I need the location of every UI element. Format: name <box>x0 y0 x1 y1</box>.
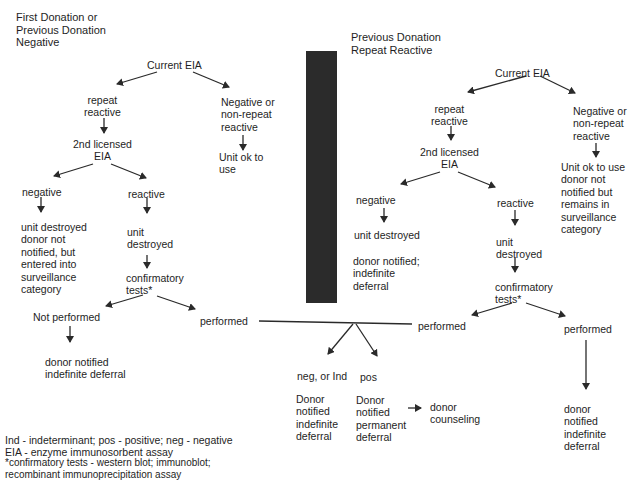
legend-footnote: *confirmatory tests - western blot; immu… <box>5 457 211 481</box>
result-pos-outcome: Donor notified permanent deferral <box>356 394 406 444</box>
performed-connector-line <box>259 321 412 324</box>
left-second-eia: 2nd licensed EIA <box>73 138 132 163</box>
left-performed: performed <box>200 315 248 327</box>
right-performed-right-outcome: donor notified indefinite deferral <box>564 403 606 453</box>
left-unit-ok: Unit ok to use <box>219 151 263 176</box>
left-negative: negative <box>22 186 62 198</box>
left-negative-outcome: unit destroyed donor not notified, but e… <box>21 221 87 295</box>
left-not-performed-outcome: donor notified indefinite deferral <box>45 356 126 381</box>
right-performed-right: performed <box>564 323 612 335</box>
left-not-performed: Not performed <box>33 311 100 323</box>
right-confirmatory-tests: confirmatory tests* <box>495 281 553 306</box>
right-negative-outcome: donor notified; indefinite deferral <box>353 255 420 292</box>
right-performed-left: performed <box>418 320 466 332</box>
result-donor-counseling: donor counseling <box>430 401 480 426</box>
right-negative: negative <box>356 194 396 206</box>
right-negative-unit-destroyed: unit destroyed <box>354 229 420 241</box>
right-panel-heading: Previous Donation Repeat Reactive <box>351 31 441 56</box>
left-unit-destroyed: unit destroyed <box>127 226 173 251</box>
result-pos: pos <box>360 371 377 383</box>
right-reactive: reactive <box>497 197 534 209</box>
left-negative-or-nonrepeat: Negative or non-repeat reactive <box>221 96 275 133</box>
right-repeat-reactive: repeat reactive <box>431 103 468 128</box>
right-current-eia: Current EIA <box>495 67 550 79</box>
right-unit-destroyed: unit destroyed <box>496 236 542 261</box>
left-confirmatory-tests: confirmatory tests* <box>126 272 184 297</box>
result-neg-outcome: Donor notified indefinite deferral <box>296 393 338 443</box>
left-repeat-reactive: repeat reactive <box>84 94 121 119</box>
legend-abbreviations-1: Ind - indeterminant; pos - positive; neg… <box>5 434 233 446</box>
right-negative-or-nonrepeat: Negative or non-repeat reactive <box>573 105 627 142</box>
result-neg-or-ind: neg, or Ind <box>297 370 347 382</box>
right-unit-ok: Unit ok to use donor not notified but re… <box>561 161 625 235</box>
right-second-eia: 2nd licensed EIA <box>420 146 479 171</box>
left-reactive: reactive <box>128 188 165 200</box>
left-current-eia: Current EIA <box>147 59 202 71</box>
left-panel-heading: First Donation or Previous Donation Nega… <box>16 11 106 49</box>
